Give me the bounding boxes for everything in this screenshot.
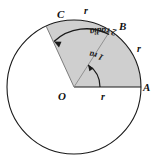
radius-label-top: r bbox=[84, 6, 88, 16]
radius-label-arc-right: r bbox=[137, 44, 141, 54]
point-label-o: O bbox=[58, 91, 66, 102]
radius-label-bottom: r bbox=[101, 92, 105, 102]
point-label-a: A bbox=[143, 82, 150, 93]
geometry-figure: 2 radians 1 rad O A B C r r r bbox=[0, 0, 159, 163]
point-label-b: B bbox=[119, 21, 126, 32]
circle-diagram-svg: 2 radians 1 rad bbox=[0, 0, 159, 163]
point-label-c: C bbox=[57, 9, 64, 20]
